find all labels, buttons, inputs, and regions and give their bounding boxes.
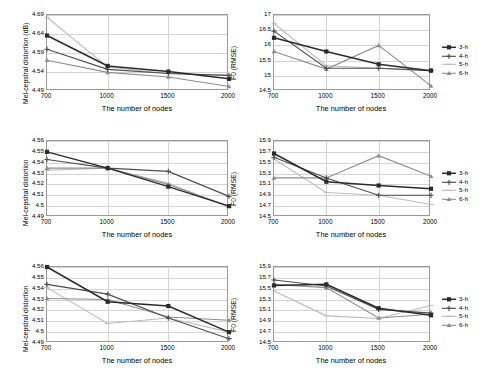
- series-marker: [377, 306, 381, 310]
- series-marker: [44, 47, 49, 52]
- x-tick-label: 700: [41, 93, 52, 99]
- series-marker: [324, 180, 328, 184]
- legend-item-5-h[interactable]: 5-h: [441, 312, 468, 321]
- chart-panel-r3c1: Mel-cepstral distortion 4.494.54.514.524…: [0, 252, 245, 377]
- y-tick-label: 15.5: [259, 159, 271, 165]
- x-tick-label: 2000: [221, 93, 235, 99]
- y-tick-label: 4.51: [32, 191, 44, 197]
- y-tick-label: 15: [264, 72, 271, 78]
- legend-item-4-h[interactable]: 4-h: [441, 304, 468, 313]
- legend-marker-icon: [441, 178, 457, 187]
- y-axis-title: F0 (RMSE): [230, 298, 237, 332]
- y-axis-title: F0 (RMSE): [230, 172, 237, 206]
- legend-marker-icon: [441, 295, 457, 304]
- legend-label: 3-h: [459, 295, 468, 304]
- series-line: [47, 168, 229, 207]
- x-tick-label: 2000: [423, 345, 437, 351]
- legend-marker-icon: [441, 69, 457, 78]
- y-axis-title: Mel-cepstral distortion: [22, 286, 29, 352]
- series-line: [47, 298, 229, 320]
- y-tick-label: 16: [264, 41, 271, 47]
- y-tick-label: 4.55: [32, 148, 44, 154]
- legend-label: 3-h: [459, 169, 468, 178]
- legend: 3-h4-h5-h6-h: [441, 43, 468, 77]
- series-line: [274, 24, 431, 71]
- legend-marker-icon: [441, 304, 457, 313]
- series-marker: [166, 185, 170, 189]
- y-tick-label: 4.53: [32, 295, 44, 301]
- series-marker: [166, 304, 170, 308]
- chart-panel-r3c2: F0 (RMSE) 14.514.714.915.115.315.515.715…: [245, 252, 490, 377]
- y-tick-label: 15.5: [259, 56, 271, 62]
- y-tick-label: 15.3: [259, 295, 271, 301]
- series-line: [274, 284, 431, 318]
- legend-marker-icon: [441, 321, 457, 330]
- x-tick-label: 700: [268, 345, 279, 351]
- y-tick-label: 4.54: [32, 68, 44, 74]
- legend-item-3-h[interactable]: 3-h: [441, 295, 468, 304]
- x-tick-label: 2000: [221, 219, 235, 225]
- chart-panel-r1c2: F0 (RMSE) 14.51515.51616.517 70010001500…: [245, 0, 490, 126]
- x-tick-label: 2000: [221, 345, 235, 351]
- x-axis-title: The number of nodes: [316, 105, 386, 113]
- legend-item-6-h[interactable]: 6-h: [441, 195, 468, 204]
- y-tick-label: 15.3: [259, 169, 271, 175]
- legend-item-6-h[interactable]: 6-h: [441, 321, 468, 330]
- legend-item-4-h[interactable]: 4-h: [441, 52, 468, 61]
- series-marker: [429, 69, 433, 73]
- y-tick-label: 15.1: [259, 306, 271, 312]
- series-line: [274, 284, 431, 315]
- legend-item-5-h[interactable]: 5-h: [441, 186, 468, 195]
- chart-panel-r2c2: F0 (RMSE) 14.514.714.915.115.315.515.715…: [245, 126, 490, 252]
- series-marker: [105, 292, 110, 297]
- y-tick-label: 15.1: [259, 180, 271, 186]
- x-axis-title: The number of nodes: [316, 357, 386, 365]
- series-marker: [376, 193, 381, 198]
- y-axis-title: Mel-cepstral distortion (dB): [22, 23, 29, 104]
- series-layer: [274, 15, 431, 91]
- legend-marker-icon: [441, 60, 457, 69]
- series-marker: [272, 283, 276, 287]
- series-marker: [106, 300, 110, 304]
- series-marker: [271, 277, 276, 282]
- legend-label: 6-h: [459, 321, 468, 330]
- y-tick-label: 4.5: [35, 202, 44, 208]
- plot-area: [273, 266, 430, 342]
- series-marker: [44, 282, 49, 287]
- y-tick-label: 14.7: [259, 202, 271, 208]
- series-marker: [324, 282, 328, 286]
- series-line: [47, 284, 229, 338]
- series-marker: [166, 70, 170, 74]
- legend-item-5-h[interactable]: 5-h: [441, 60, 468, 69]
- plot-area: [273, 14, 430, 90]
- series-marker: [324, 49, 328, 53]
- x-tick-label: 700: [41, 345, 52, 351]
- legend-item-4-h[interactable]: 4-h: [441, 178, 468, 187]
- legend-item-3-h[interactable]: 3-h: [441, 169, 468, 178]
- y-tick-label: 15.5: [259, 285, 271, 291]
- legend-marker-icon: [441, 312, 457, 321]
- x-tick-label: 1500: [160, 93, 174, 99]
- series-marker: [106, 166, 110, 170]
- chart-panel-r1c1: Mel-cepstral distortion (dB) 4.494.544.5…: [0, 0, 245, 126]
- y-tick-label: 15.7: [259, 148, 271, 154]
- series-line: [47, 267, 229, 332]
- figure-canvas: Mel-cepstral distortion (dB) 4.494.544.5…: [0, 0, 490, 377]
- legend: 3-h4-h5-h6-h: [441, 295, 468, 329]
- series-marker: [376, 66, 381, 71]
- y-tick-label: 14.9: [259, 317, 271, 323]
- x-tick-label: 2000: [423, 219, 437, 225]
- series-line: [274, 31, 431, 71]
- legend-marker-icon: [441, 195, 457, 204]
- x-tick-label: 700: [268, 93, 279, 99]
- series-line: [274, 291, 431, 319]
- legend-item-6-h[interactable]: 6-h: [441, 69, 468, 78]
- series-line: [274, 45, 431, 85]
- x-tick-label: 2000: [423, 93, 437, 99]
- series-marker: [377, 62, 381, 66]
- plot-area: [46, 266, 228, 342]
- x-axis-title: The number of nodes: [316, 231, 386, 239]
- legend-item-3-h[interactable]: 3-h: [441, 43, 468, 52]
- y-tick-label: 15.7: [259, 274, 271, 280]
- legend-label: 4-h: [459, 178, 468, 187]
